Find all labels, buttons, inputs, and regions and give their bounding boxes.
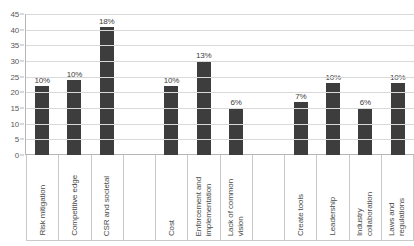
category-label-text: Enforcement and implementation [194,177,214,236]
bar-value-label: 13% [196,51,211,60]
category-label-cell-empty [124,155,156,241]
y-axis-tick-mark [20,155,24,156]
gridline [26,45,414,46]
bar-value-label: 6% [231,98,242,107]
bar[interactable] [35,86,49,155]
category-label-cell-empty [253,155,285,241]
y-axis-tick-label: 30 [11,57,20,66]
category-label-cell: Leadership [317,155,349,241]
y-axis-tick-mark [20,45,24,46]
bar[interactable] [229,108,243,155]
bar-column: 13% [188,14,220,155]
gridline [26,139,414,140]
y-axis-tick-mark [20,139,24,140]
y-axis-tick-label: 15 [11,104,20,113]
bar-column-empty [123,14,155,155]
y-axis-tick-label: 25 [11,72,20,81]
category-label-text: Risk mitigation [38,185,48,236]
y-axis-tick-label: 45 [11,10,20,19]
category-label-cell: Laws and regulations [382,155,414,241]
bar-column-empty [252,14,284,155]
category-label-text: Create tools [296,194,306,236]
bar-column: 10% [317,14,349,155]
plot-area: 10%10%18%10%13%6%7%10%6%10% [26,14,414,155]
bar[interactable] [326,83,340,155]
category-label-cell: Competitive edge [59,155,91,241]
category-label-row: Risk mitigationCompetitive edgeCSR and s… [26,155,414,241]
bar-chart: 454035302520151050 10%10%18%10%13%6%7%10… [0,0,414,246]
category-label-cell: Lack of common vision [221,155,253,241]
gridline [26,108,414,109]
category-label-text: Industry collaboration [355,192,375,236]
bar-column: 10% [26,14,58,155]
y-axis-tick-mark [20,76,24,77]
bar-columns: 10%10%18%10%13%6%7%10%6%10% [26,14,414,155]
bar-column: 6% [349,14,381,155]
category-label-cell: Industry collaboration [350,155,382,241]
bar-value-label: 6% [360,98,371,107]
bar-column: 7% [285,14,317,155]
gridline [26,30,414,31]
gridline [26,124,414,125]
category-label-cell: Cost [156,155,188,241]
y-axis-tick-mark [20,14,24,15]
category-label-text: Lack of common vision [226,179,246,236]
category-label-cell: CSR and societal [92,155,124,241]
category-label-text: CSR and societal [102,176,112,236]
y-axis-tick-mark [20,29,24,30]
bar-column: 18% [91,14,123,155]
category-label-cell: Risk mitigation [26,155,59,241]
y-axis-tick-label: 10 [11,119,20,128]
bar-column: 6% [220,14,252,155]
y-axis-tick-label: 40 [11,25,20,34]
y-axis-tick-label: 5 [15,135,19,144]
gridline [26,77,414,78]
y-axis-tick-label: 35 [11,41,20,50]
gridline [26,14,414,15]
bar[interactable] [391,83,405,155]
y-axis-tick-mark [20,108,24,109]
y-axis-tick-mark [20,123,24,124]
category-label-text: Laws and regulations [387,198,407,236]
bar[interactable] [67,80,81,155]
bar[interactable] [358,108,372,155]
category-label-text: Competitive edge [70,175,80,236]
y-axis-tick-mark [20,92,24,93]
category-label-text: Cost [167,220,177,236]
bar-value-label: 18% [99,17,114,26]
bar[interactable] [294,102,308,155]
y-axis-tick-label: 20 [11,88,20,97]
bar-column: 10% [382,14,414,155]
category-label-cell: Enforcement and implementation [188,155,220,241]
category-label-text: Leadership [328,197,338,236]
gridline [26,92,414,93]
bar-column: 10% [58,14,90,155]
y-axis: 454035302520151050 [0,0,26,160]
category-label-cell: Create tools [285,155,317,241]
bar-column: 10% [155,14,187,155]
bar[interactable] [164,86,178,155]
gridline [26,61,414,62]
y-axis-tick-label: 0 [15,151,19,160]
y-axis-tick-mark [20,61,24,62]
